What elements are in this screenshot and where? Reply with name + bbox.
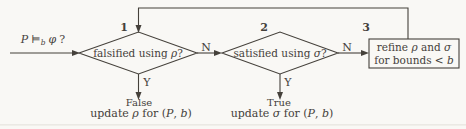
false-outcome-detail: update ρ for (P, b) bbox=[90, 108, 192, 121]
question-mark: ? bbox=[321, 47, 327, 59]
bound-subscript: b bbox=[41, 38, 46, 47]
no2-label: N bbox=[342, 42, 352, 55]
diamond-satisfied-label: satisfied using σ? bbox=[233, 47, 326, 59]
symbol-phi: φ bbox=[49, 33, 57, 46]
falsified-text: falsified using bbox=[93, 47, 171, 59]
symbol-sigma: σ bbox=[273, 107, 281, 120]
step1-badge: 1 bbox=[120, 22, 128, 35]
start-condition-label: P⊨bφ? bbox=[21, 34, 65, 47]
true-outcome-detail: update σ for (P, b) bbox=[231, 108, 334, 121]
step3-badge: 3 bbox=[362, 22, 370, 35]
box-refine-label: refine ρ and σ for bounds < b bbox=[374, 41, 453, 67]
flowchart-canvas: P⊨bφ? 1 falsified using ρ? N Y 2 satisfi… bbox=[0, 0, 466, 129]
yes2-label: Y bbox=[284, 77, 291, 90]
refine-line1: refine ρ and σ bbox=[374, 41, 453, 54]
no2-arrowhead-icon bbox=[361, 50, 369, 56]
models-symbol: ⊨ bbox=[31, 33, 40, 46]
question-mark: ? bbox=[177, 47, 183, 59]
paren-close: ) bbox=[188, 107, 192, 120]
scan-artifact-line bbox=[0, 124, 466, 126]
paren-close: ) bbox=[329, 107, 333, 120]
symbol-b: b bbox=[447, 54, 454, 66]
question-mark: ? bbox=[59, 33, 65, 46]
symbol-sigma: σ bbox=[444, 41, 451, 53]
diamond-falsified-label: falsified using ρ? bbox=[93, 47, 183, 59]
bounds-text: for bounds < bbox=[374, 54, 447, 66]
symbol-P: P bbox=[21, 33, 28, 46]
step2-badge: 2 bbox=[260, 22, 268, 35]
update-text: update bbox=[231, 107, 273, 120]
refine-line2: for bounds < b bbox=[374, 54, 453, 67]
for-text: for ( bbox=[280, 107, 307, 120]
satisfied-text: satisfied using bbox=[233, 47, 313, 59]
refine-text: refine bbox=[377, 41, 412, 53]
no1-label: N bbox=[201, 42, 211, 55]
yes1-label: Y bbox=[143, 77, 150, 90]
for-text: for ( bbox=[139, 107, 166, 120]
and-text: and bbox=[418, 41, 444, 53]
update-text: update bbox=[90, 107, 132, 120]
